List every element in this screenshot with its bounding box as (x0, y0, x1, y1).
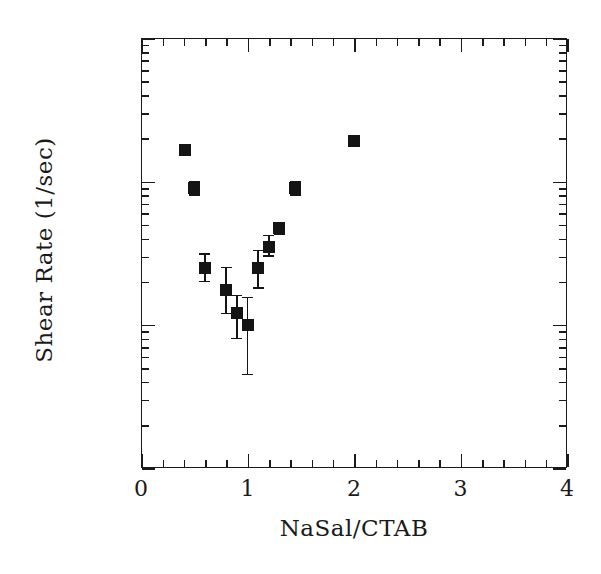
y-tick-major (142, 325, 155, 327)
x-tick-minor (333, 460, 335, 467)
y-tick-minor (142, 382, 149, 384)
x-tick-minor (418, 460, 420, 467)
y-tick-minor (142, 257, 149, 259)
x-tick-minor (482, 460, 484, 467)
y-tick-minor (142, 81, 149, 83)
x-tick-minor (397, 460, 399, 467)
error-bar-cap (199, 253, 210, 255)
y-tick-minor (559, 81, 566, 83)
x-tick-minor (205, 460, 207, 467)
x-tick-label: 0 (101, 478, 181, 500)
y-tick-major (553, 468, 566, 470)
x-tick-minor (226, 39, 228, 46)
error-bar-cap (189, 194, 200, 196)
y-tick-minor (559, 400, 566, 402)
data-point-marker (188, 182, 200, 194)
x-tick-minor (184, 39, 186, 46)
x-tick-minor (163, 39, 165, 46)
y-tick-minor (559, 357, 566, 359)
x-axis-title: NaSal/CTAB (141, 515, 567, 541)
x-tick-minor (546, 460, 548, 467)
x-tick-minor (226, 460, 228, 467)
y-tick-major (142, 38, 155, 40)
x-tick-major (354, 454, 356, 467)
error-bar-cap (231, 338, 242, 340)
x-tick-minor (269, 460, 271, 467)
y-tick-minor (559, 331, 566, 333)
error-bar-cap (263, 255, 274, 257)
y-axis-title: Shear Rate (1/sec) (31, 80, 57, 420)
x-tick-major (461, 39, 463, 52)
y-tick-minor (559, 195, 566, 197)
x-tick-minor (312, 460, 314, 467)
error-bar-cap (199, 281, 210, 283)
data-point-marker (263, 241, 275, 253)
y-tick-minor (559, 213, 566, 215)
x-tick-minor (439, 460, 441, 467)
y-tick-minor (142, 204, 149, 206)
data-point-marker (179, 144, 191, 156)
y-tick-minor (559, 368, 566, 370)
y-tick-minor (142, 357, 149, 359)
y-tick-major (553, 182, 566, 184)
x-tick-minor (482, 39, 484, 46)
y-tick-minor (559, 204, 566, 206)
data-point-marker (199, 262, 211, 274)
y-tick-minor (559, 60, 566, 62)
y-tick-minor (142, 70, 149, 72)
data-point-marker (231, 307, 243, 319)
x-tick-major (567, 39, 569, 52)
x-tick-minor (376, 39, 378, 46)
error-bar (247, 297, 249, 374)
y-tick-minor (142, 52, 149, 54)
x-tick-label: 1 (208, 478, 288, 500)
x-tick-major (354, 39, 356, 52)
data-point-marker (242, 319, 254, 331)
x-tick-label: 4 (527, 478, 601, 500)
x-tick-label: 2 (314, 478, 394, 500)
y-tick-minor (559, 188, 566, 190)
error-bar-cap (263, 235, 274, 237)
x-tick-minor (503, 460, 505, 467)
error-bar-cap (231, 295, 242, 297)
y-tick-minor (142, 339, 149, 341)
y-tick-minor (559, 45, 566, 47)
y-tick-minor (559, 52, 566, 54)
error-bar-cap (253, 287, 264, 289)
x-tick-minor (163, 460, 165, 467)
y-tick-minor (142, 138, 149, 140)
error-bar-cap (242, 297, 253, 299)
y-tick-minor (142, 347, 149, 349)
y-tick-minor (142, 425, 149, 427)
x-tick-minor (312, 39, 314, 46)
y-tick-minor (559, 257, 566, 259)
y-tick-minor (559, 339, 566, 341)
y-tick-major (553, 38, 566, 40)
y-tick-minor (142, 188, 149, 190)
x-tick-minor (205, 39, 207, 46)
x-tick-major (248, 39, 250, 52)
y-tick-minor (142, 225, 149, 227)
y-tick-minor (142, 400, 149, 402)
y-tick-minor (559, 282, 566, 284)
data-point-marker (252, 262, 264, 274)
y-tick-minor (142, 213, 149, 215)
y-tick-major (142, 468, 155, 470)
error-bar-cap (290, 194, 301, 196)
y-tick-major (142, 182, 155, 184)
x-tick-minor (525, 460, 527, 467)
data-point-marker (289, 182, 301, 194)
x-tick-minor (333, 39, 335, 46)
x-tick-minor (184, 460, 186, 467)
x-tick-major (567, 454, 569, 467)
x-tick-minor (525, 39, 527, 46)
y-tick-minor (142, 113, 149, 115)
data-point-marker (348, 135, 360, 147)
x-tick-minor (269, 39, 271, 46)
figure: Shear Rate (1/sec) NaSal/CTAB 1101001000… (0, 0, 601, 574)
y-tick-minor (559, 95, 566, 97)
y-tick-minor (559, 138, 566, 140)
y-tick-minor (559, 225, 566, 227)
error-bar-cap (221, 267, 232, 269)
x-tick-minor (290, 460, 292, 467)
